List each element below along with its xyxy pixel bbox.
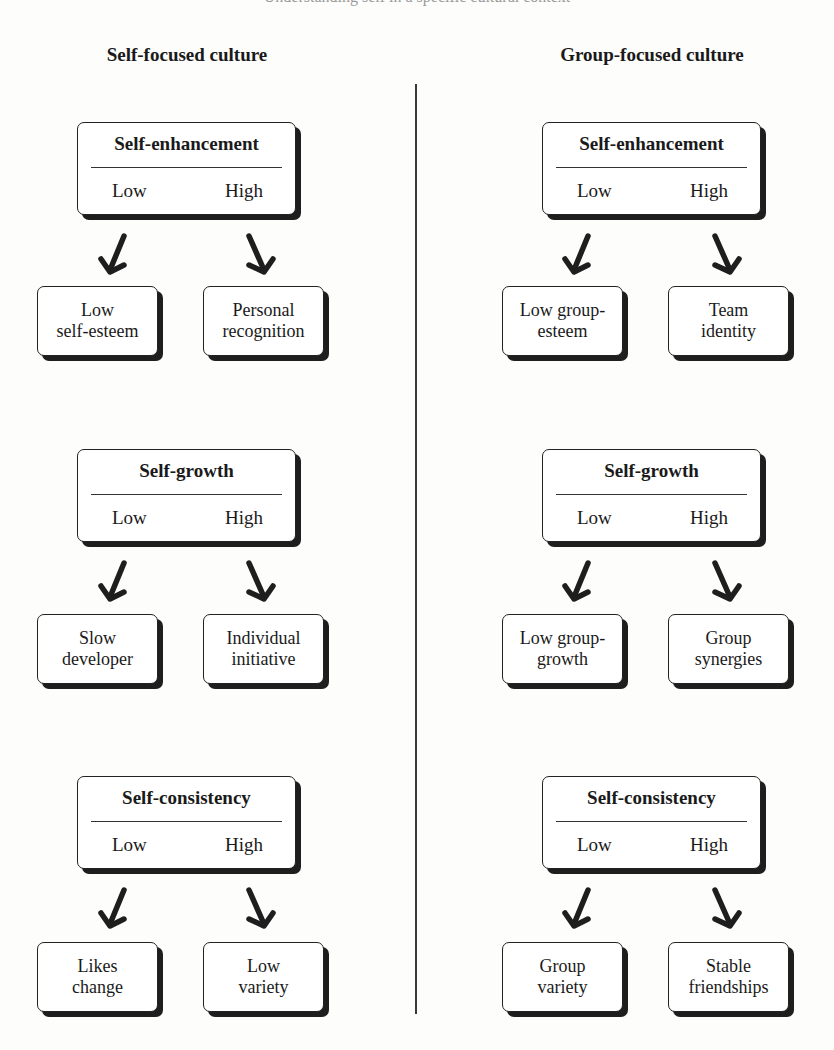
outcome-line-1: Stable xyxy=(689,956,769,977)
outcome-box-high: Individual initiative xyxy=(203,614,324,684)
outcome-line-1: Low xyxy=(57,300,139,321)
low-label: Low xyxy=(112,834,147,856)
column-title-group-focused: Group-focused culture xyxy=(542,44,762,66)
outcome-line-1: Personal xyxy=(223,300,305,321)
outcome-line-2: friendships xyxy=(689,977,769,998)
outcome-line-1: Likes xyxy=(72,956,123,977)
outcome-box-high: Group synergies xyxy=(668,614,789,684)
outcome-label: Slow developer xyxy=(62,628,133,670)
outcome-box-high: Low variety xyxy=(203,942,324,1012)
outcome-line-2: growth xyxy=(520,649,605,670)
outcome-line-2: developer xyxy=(62,649,133,670)
outcome-box-low: Low self-esteem xyxy=(37,286,158,356)
dimension-title: Self-growth xyxy=(78,460,295,482)
outcome-line-1: Individual xyxy=(227,628,301,649)
arrow-down-right-icon xyxy=(237,232,277,278)
low-label: Low xyxy=(577,834,612,856)
outcome-label: Likes change xyxy=(72,956,123,998)
arrow-down-left-icon xyxy=(561,232,601,278)
outcome-label: Low self-esteem xyxy=(57,300,139,342)
high-label: High xyxy=(225,507,263,529)
outcome-label: Group variety xyxy=(538,956,588,998)
cut-off-caption: Understanding self in a specific cultura… xyxy=(0,0,834,6)
outcome-box-high: Stable friendships xyxy=(668,942,789,1012)
arrow-down-left-icon xyxy=(561,886,601,932)
outcome-line-2: recognition xyxy=(223,321,305,342)
outcome-label: Low group- growth xyxy=(520,628,605,670)
outcome-label: Low variety xyxy=(239,956,289,998)
dimension-box: Self-growth Low High xyxy=(542,449,761,542)
low-label: Low xyxy=(577,180,612,202)
arrow-down-right-icon xyxy=(237,559,277,605)
low-label: Low xyxy=(577,507,612,529)
title-rule xyxy=(556,494,747,495)
arrow-down-left-icon xyxy=(561,559,601,605)
outcome-line-2: synergies xyxy=(695,649,763,670)
outcome-box-low: Low group- growth xyxy=(502,614,623,684)
dimension-title: Self-consistency xyxy=(543,787,760,809)
outcome-box-high: Team identity xyxy=(668,286,789,356)
outcome-label: Group synergies xyxy=(695,628,763,670)
outcome-line-2: esteem xyxy=(520,321,605,342)
outcome-line-2: initiative xyxy=(227,649,301,670)
dimension-title: Self-enhancement xyxy=(78,133,295,155)
column-divider xyxy=(415,84,417,1014)
arrow-down-right-icon xyxy=(703,559,743,605)
arrow-down-right-icon xyxy=(703,232,743,278)
title-rule xyxy=(556,167,747,168)
title-rule xyxy=(91,494,282,495)
dimension-box: Self-growth Low High xyxy=(77,449,296,542)
outcome-label: Low group- esteem xyxy=(520,300,605,342)
outcome-box-high: Personal recognition xyxy=(203,286,324,356)
high-label: High xyxy=(225,180,263,202)
low-label: Low xyxy=(112,507,147,529)
outcome-line-1: Slow xyxy=(62,628,133,649)
high-label: High xyxy=(690,507,728,529)
column-title-self-focused: Self-focused culture xyxy=(77,44,297,66)
title-rule xyxy=(91,167,282,168)
dimension-box: Self-consistency Low High xyxy=(77,776,296,869)
arrow-down-right-icon xyxy=(237,886,277,932)
outcome-label: Team identity xyxy=(701,300,756,342)
outcome-line-2: variety xyxy=(538,977,588,998)
arrow-down-left-icon xyxy=(97,886,137,932)
dimension-box: Self-consistency Low High xyxy=(542,776,761,869)
dimension-box: Self-enhancement Low High xyxy=(77,122,296,215)
outcome-box-low: Slow developer xyxy=(37,614,158,684)
outcome-box-low: Low group- esteem xyxy=(502,286,623,356)
dimension-box: Self-enhancement Low High xyxy=(542,122,761,215)
outcome-line-2: variety xyxy=(239,977,289,998)
dimension-title: Self-enhancement xyxy=(543,133,760,155)
arrow-down-left-icon xyxy=(97,232,137,278)
arrow-down-right-icon xyxy=(703,886,743,932)
arrow-down-left-icon xyxy=(97,559,137,605)
high-label: High xyxy=(225,834,263,856)
outcome-line-2: change xyxy=(72,977,123,998)
high-label: High xyxy=(690,834,728,856)
dimension-title: Self-consistency xyxy=(78,787,295,809)
dimension-title: Self-growth xyxy=(543,460,760,482)
outcome-label: Personal recognition xyxy=(223,300,305,342)
outcome-line-1: Group xyxy=(695,628,763,649)
high-label: High xyxy=(690,180,728,202)
outcome-line-1: Low group- xyxy=(520,628,605,649)
outcome-box-low: Likes change xyxy=(37,942,158,1012)
outcome-line-1: Team xyxy=(701,300,756,321)
title-rule xyxy=(556,821,747,822)
outcome-line-1: Group xyxy=(538,956,588,977)
title-rule xyxy=(91,821,282,822)
outcome-label: Stable friendships xyxy=(689,956,769,998)
outcome-box-low: Group variety xyxy=(502,942,623,1012)
outcome-line-2: self-esteem xyxy=(57,321,139,342)
outcome-line-2: identity xyxy=(701,321,756,342)
low-label: Low xyxy=(112,180,147,202)
outcome-line-1: Low group- xyxy=(520,300,605,321)
outcome-label: Individual initiative xyxy=(227,628,301,670)
outcome-line-1: Low xyxy=(239,956,289,977)
